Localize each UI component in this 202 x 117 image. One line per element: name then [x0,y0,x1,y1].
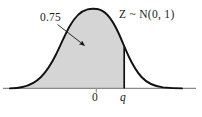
distribution-label: Z ~ N(0, 1) [119,9,175,21]
shaded-probability-region [3,9,190,89]
probability-label: 0.75 [40,12,61,24]
normal-distribution-figure: 0.75 Z ~ N(0, 1) 0 q [0,0,202,117]
quantile-tick-label: q [120,92,126,104]
origin-tick-label: 0 [92,92,98,104]
